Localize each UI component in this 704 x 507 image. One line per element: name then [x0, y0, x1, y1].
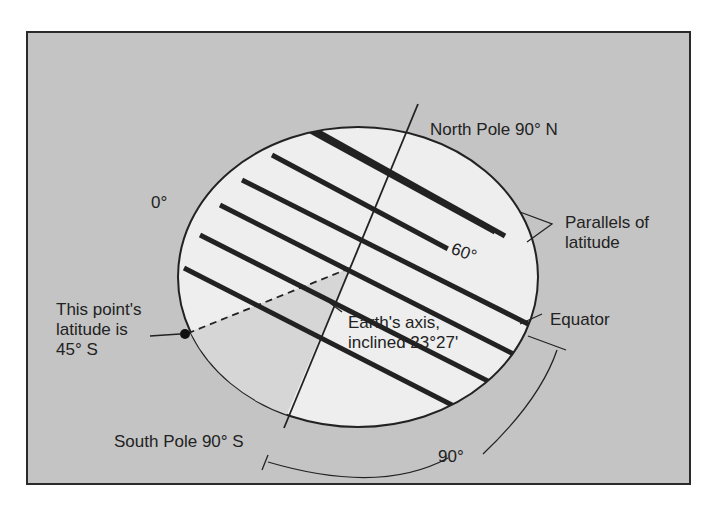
axis-label-line1: Earth's axis,	[348, 313, 440, 333]
parallels-label-line2: latitude	[565, 233, 620, 253]
globe-diagram	[0, 0, 704, 507]
axis-label-line2: inclined 23°27'	[348, 333, 458, 353]
point-label-line3: 45° S	[56, 340, 98, 360]
point-label-line1: This point's	[56, 300, 141, 320]
point-label-line2: latitude is	[56, 320, 128, 340]
north-pole-label: North Pole 90° N	[430, 120, 558, 140]
ninety-degree-arc	[268, 458, 448, 478]
point-marker	[180, 329, 190, 339]
south-pole-label: South Pole 90° S	[114, 432, 244, 452]
ninety-degree-label: 90°	[438, 447, 464, 467]
zero-degree-label: 0°	[151, 193, 167, 213]
parallels-label-line1: Parallels of	[565, 213, 649, 233]
equator-label: Equator	[550, 310, 610, 330]
